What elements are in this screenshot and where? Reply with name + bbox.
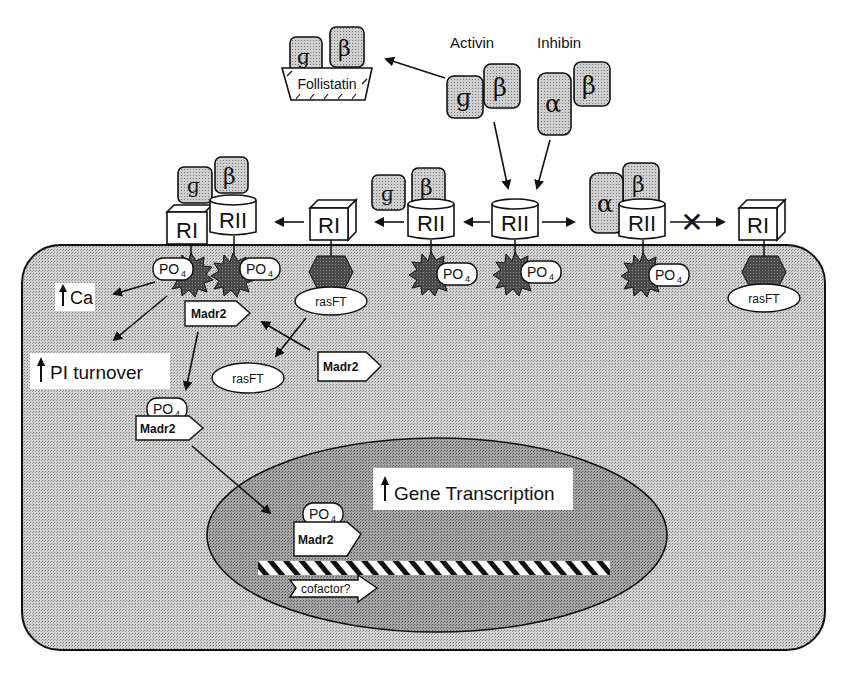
svg-text:Gene Transcription: Gene Transcription <box>394 483 555 504</box>
svg-text:4: 4 <box>181 269 186 279</box>
svg-text:RII: RII <box>417 211 445 236</box>
svg-text:PO: PO <box>159 261 179 277</box>
beta-b-glyph: β <box>493 74 507 102</box>
pi-turnover-output: PI turnover <box>30 353 170 389</box>
svg-text:β: β <box>632 172 645 197</box>
svg-text:rasFT: rasFT <box>315 295 347 309</box>
svg-text:RII: RII <box>219 208 247 233</box>
ca-output: Ca <box>55 283 95 311</box>
svg-text:PO: PO <box>153 401 173 417</box>
kinase-ri-inactive-2 <box>742 256 786 288</box>
svg-text:4: 4 <box>549 272 554 282</box>
svg-text:PO: PO <box>527 264 547 280</box>
kinase-ri-inactive-1 <box>309 256 353 288</box>
svg-text:Ca: Ca <box>70 288 94 308</box>
blocked-x-icon: ✕ <box>680 207 703 238</box>
rasft-free: rasFT <box>212 363 284 393</box>
svg-text:Madr2: Madr2 <box>298 533 334 547</box>
svg-text:Madr2: Madr2 <box>140 422 176 436</box>
svg-text:RII: RII <box>501 211 529 236</box>
madr2-phospho-nuclear: Madr2 <box>294 522 361 556</box>
nucleus <box>207 438 667 632</box>
svg-text:RI: RI <box>318 213 340 238</box>
svg-text:Madr2: Madr2 <box>191 307 227 321</box>
inhibin-dimer: α β <box>538 62 610 135</box>
svg-text:cofactor?: cofactor? <box>301 582 351 596</box>
arrow-activin-to-follistatin <box>386 59 445 78</box>
svg-text:rasFT: rasFT <box>232 372 264 386</box>
svg-text:ɡ: ɡ <box>297 45 310 69</box>
receptor-complex-active: ɡ β RI RII <box>167 157 256 258</box>
inhibin-label: Inhibin <box>537 34 581 51</box>
svg-text:rasFT: rasFT <box>748 292 780 306</box>
svg-text:4: 4 <box>677 275 682 285</box>
arrow-activin-to-rii <box>494 122 508 188</box>
svg-text:RI: RI <box>747 213 769 238</box>
activin-signaling-diagram: Activin Inhibin ɡ β α β ɡ β Follistatin <box>0 0 842 673</box>
svg-text:β: β <box>420 175 433 200</box>
madr2-at-receptor: Madr2 <box>185 301 250 326</box>
dna-strand <box>258 561 610 575</box>
svg-text:4: 4 <box>268 269 273 279</box>
svg-text:PO: PO <box>655 267 675 283</box>
follistatin-complex: ɡ β Follistatin <box>282 27 372 100</box>
svg-text:PO: PO <box>309 506 329 522</box>
svg-text:PI turnover: PI turnover <box>50 362 144 383</box>
activin-dimer: ɡ β <box>447 64 520 118</box>
svg-text:PO: PO <box>443 266 463 282</box>
receptor-rii-inhibin: α β RII <box>590 163 665 258</box>
svg-text:α: α <box>597 190 613 218</box>
gene-transcription-output: Gene Transcription <box>373 468 573 510</box>
svg-text:β: β <box>338 36 351 61</box>
rasft-bound-1: rasFT <box>295 287 367 315</box>
svg-text:PO: PO <box>246 261 266 277</box>
svg-text:ɡ: ɡ <box>381 182 394 206</box>
arrow-inhibin-to-rii <box>537 140 550 188</box>
beta-a-glyph: ɡ <box>456 84 471 112</box>
svg-text:β: β <box>223 164 236 189</box>
inhibin-beta-glyph: β <box>582 72 596 100</box>
alpha-glyph: α <box>545 90 561 118</box>
svg-text:4: 4 <box>465 274 470 284</box>
madr2-phospho-cyto: Madr2 <box>136 416 203 440</box>
activin-label: Activin <box>450 34 494 51</box>
svg-text:RI: RI <box>176 218 198 243</box>
svg-text:Madr2: Madr2 <box>323 360 359 374</box>
follistatin-label: Follistatin <box>297 76 356 92</box>
svg-text:ɡ: ɡ <box>187 174 200 198</box>
rasft-bound-2: rasFT <box>728 284 800 312</box>
svg-text:RII: RII <box>628 211 656 236</box>
